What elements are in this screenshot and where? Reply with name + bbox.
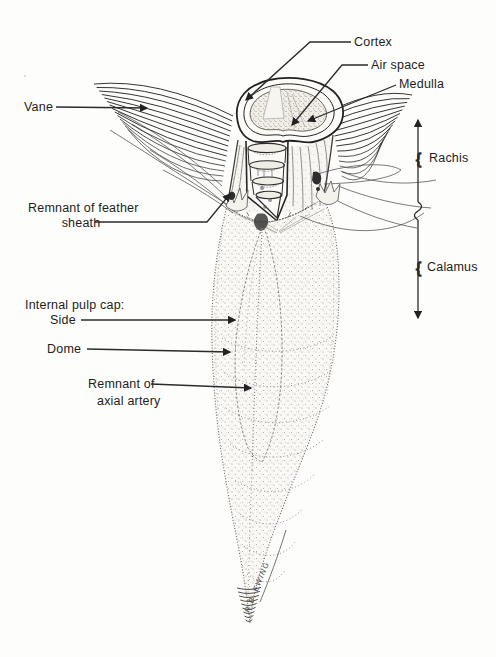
label-sheath: Remnant of feather sheath: [28, 201, 134, 231]
sheath-blob-right-2: [316, 187, 320, 191]
label-sheath-line1: Remnant of feather: [28, 201, 134, 216]
label-side: Side: [50, 313, 76, 328]
paper-speck: [24, 75, 26, 77]
rachis-cross-section: [237, 78, 343, 143]
label-artery-line1: Remnant of: [88, 377, 155, 392]
rachis-calamus-bracket: { {: [415, 120, 422, 318]
vane-leader: [56, 107, 147, 108]
rachis-brace: {: [416, 150, 421, 167]
vane-left: [94, 83, 233, 181]
tip-ridge: [246, 619, 253, 621]
calamus-body: R.B. EWING: [212, 198, 339, 623]
sheath-flap-right: [316, 181, 340, 205]
label-air-space: Air space: [371, 58, 425, 73]
vane-barb-right: [335, 117, 397, 141]
feather-anatomy-figure: R.B. EWING: [0, 0, 496, 657]
dome-leader: [87, 349, 230, 352]
feather-illustration: R.B. EWING: [0, 0, 496, 657]
label-cortex: Cortex: [354, 35, 392, 50]
label-calamus: Calamus: [427, 260, 478, 275]
tip-ridge: [245, 615, 254, 617]
vane-barb-left: [128, 130, 223, 182]
vane-barb-left: [123, 123, 225, 172]
calamus-outline: [212, 198, 339, 623]
label-artery-line2: axial artery: [97, 394, 161, 409]
label-sheath-line2: sheath: [28, 216, 134, 231]
vane-barb-right: [342, 143, 381, 180]
label-dome: Dome: [47, 342, 81, 357]
calamus-brace: {: [416, 259, 421, 276]
label-vane: Vane: [24, 100, 53, 115]
label-pulp-cap-header: Internal pulp cap:: [25, 298, 125, 313]
label-medulla: Medulla: [399, 77, 444, 92]
label-rachis: Rachis: [429, 151, 468, 166]
